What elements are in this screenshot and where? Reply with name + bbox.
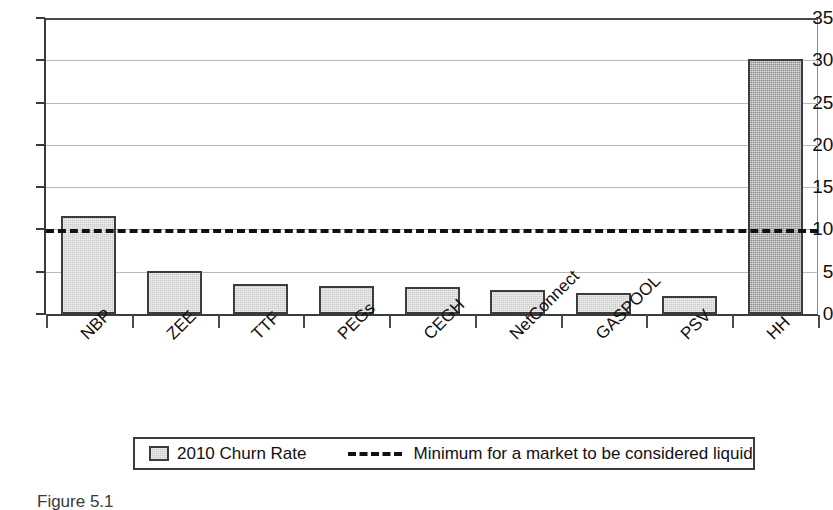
y-tick-mark (36, 186, 45, 188)
y-tick-mark (36, 102, 45, 104)
x-tick-mark (303, 315, 305, 328)
legend-swatch-icon (149, 446, 169, 461)
bar-psv (662, 296, 717, 314)
legend-label-minimum-liquid: Minimum for a market to be considered li… (413, 444, 752, 464)
bar-ttf (233, 284, 288, 314)
y-tick-mark (36, 17, 45, 19)
y-tick-mark (36, 228, 45, 230)
x-axis-label-hh: HH (763, 313, 795, 345)
churn-rate-bar-chart: 05101520253035 NBPZEETTFPEGsCEGHNetConne… (0, 0, 833, 510)
y-tick-mark (36, 271, 45, 273)
chart-legend: 2010 Churn Rate Minimum for a market to … (133, 437, 755, 470)
legend-entry-minimum-liquid: Minimum for a market to be considered li… (348, 444, 752, 464)
bar-hh (748, 59, 803, 314)
x-tick-mark (561, 315, 563, 328)
x-tick-mark (389, 315, 391, 328)
x-tick-mark (646, 315, 648, 328)
x-tick-mark (818, 315, 820, 328)
x-tick-mark (218, 315, 220, 328)
legend-entry-churn-rate: 2010 Churn Rate (149, 444, 306, 464)
y-tick-mark (36, 144, 45, 146)
y-tick-mark (36, 313, 45, 315)
y-tick-mark (36, 59, 45, 61)
figure-caption: Figure 5.1 (37, 492, 114, 510)
x-tick-mark (475, 315, 477, 328)
plot-area (46, 18, 818, 314)
bar-zee (147, 271, 202, 314)
threshold-line-minimum-liquid (46, 229, 818, 233)
legend-label-churn-rate: 2010 Churn Rate (177, 444, 306, 464)
legend-dashed-line-icon (348, 452, 402, 456)
x-tick-mark (46, 315, 48, 328)
x-tick-mark (732, 315, 734, 328)
x-tick-mark (132, 315, 134, 328)
